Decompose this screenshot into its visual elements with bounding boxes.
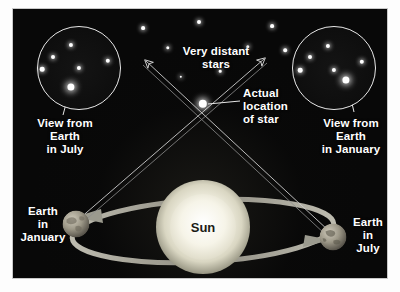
sky-panel: Sun Very distant stars Actual location o… bbox=[13, 9, 387, 278]
label-view-from-earth-in-january: View from Earth in January bbox=[322, 117, 381, 156]
label-very-distant-stars: Very distant stars bbox=[183, 45, 249, 71]
inset-field-star-view-january bbox=[308, 55, 312, 59]
sun-label: Sun bbox=[191, 220, 216, 235]
inset-field-star-view-july bbox=[106, 59, 110, 63]
inset-field-star-view-july bbox=[69, 43, 73, 47]
earth-in-january bbox=[63, 211, 90, 238]
inset-field-star-view-july bbox=[77, 66, 81, 70]
inset-field-star-view-july bbox=[40, 67, 45, 72]
label-actual-location-of-star: Actual location of star bbox=[243, 87, 288, 126]
label-view-from-earth-in-july: View from Earth in July bbox=[37, 117, 93, 156]
earth-continents bbox=[320, 224, 347, 251]
label-earth-in-january: Earth in January bbox=[21, 205, 66, 244]
inset-field-star-view-january bbox=[360, 60, 364, 64]
inset-field-star-view-july bbox=[51, 55, 55, 59]
earth-in-july bbox=[320, 224, 347, 251]
label-earth-in-july: Earth in July bbox=[353, 216, 383, 255]
inset-field-star-view-january bbox=[298, 68, 303, 73]
earth-continents bbox=[63, 211, 90, 238]
inset-field-star-view-january bbox=[332, 68, 336, 72]
inset-field-star-view-january bbox=[326, 44, 330, 48]
parallax-figure: Sun Very distant stars Actual location o… bbox=[0, 0, 400, 292]
inset-parallax-star-view-july bbox=[67, 83, 74, 90]
inset-parallax-star-view-january bbox=[342, 76, 349, 83]
